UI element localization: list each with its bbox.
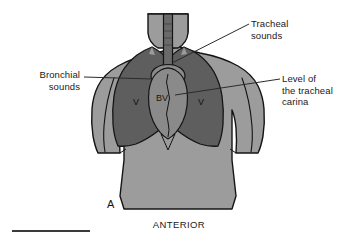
trachea-shaft [164,14,173,72]
trachea-group [164,14,173,72]
label-level-of-tracheal-carina: Level of the tracheal carina [282,73,354,108]
orientation-label-anterior: ANTERIOR [131,219,227,231]
label-bronchial-sounds: Bronchial sounds [8,69,80,92]
panel-label-a: A [107,199,114,211]
left-lung-vesicular-tag: V [133,97,139,107]
right-lung-vesicular-tag: V [198,97,204,107]
figure-page: B BV V V Bronchial sounds Tracheal sound… [0,0,355,239]
label-tracheal-sounds: Tracheal sounds [251,18,347,41]
bronchovesicular-tag: BV [156,93,168,103]
